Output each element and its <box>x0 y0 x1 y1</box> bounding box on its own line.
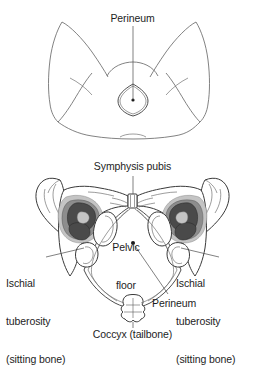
label-ischial-right-line3: (sitting bone) <box>176 353 262 366</box>
label-ischial-left-line2: tuberosity <box>6 315 92 328</box>
label-perineum-bottom: Perineum <box>152 297 244 310</box>
top-panel-artwork <box>49 22 210 139</box>
label-ischial-tuberosity-left: Ischial tuberosity (sitting bone) <box>6 252 92 369</box>
label-ischial-right-line2: tuberosity <box>176 315 262 328</box>
label-symphysis-pubis: Symphysis pubis <box>0 160 265 173</box>
label-ischial-tuberosity-right: Ischial tuberosity (sitting bone) <box>176 252 262 369</box>
label-coccyx: Coccyx (tailbone) <box>0 328 265 341</box>
label-perineum-top: Perineum <box>0 12 265 25</box>
label-ischial-right-line1: Ischial <box>176 277 262 290</box>
label-ischial-left-line1: Ischial <box>6 277 92 290</box>
label-pelvic-floor-line2: floor <box>95 279 157 292</box>
label-ischial-left-line3: (sitting bone) <box>6 353 92 366</box>
label-pelvic-floor-line1: Pelvic <box>95 241 157 254</box>
label-pelvic-floor: Pelvic floor <box>95 216 157 317</box>
